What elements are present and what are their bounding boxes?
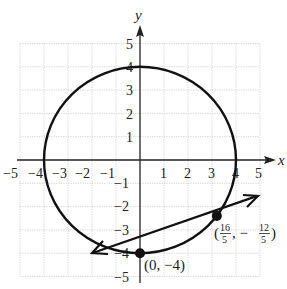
y-tick: 1 (126, 130, 133, 145)
x-axis-label: x (277, 152, 285, 168)
frac1-num: 16 (220, 222, 230, 233)
y-tick: −5 (114, 270, 129, 285)
x-tick: −4 (28, 166, 43, 181)
frac2-num: 12 (259, 222, 269, 233)
y-axis-label: y (133, 7, 142, 23)
x-tick: −3 (52, 166, 67, 181)
x-tick: 1 (160, 166, 167, 181)
y-tick: −3 (114, 223, 129, 238)
point-label-0-neg4: (0, −4) (144, 257, 185, 274)
separator: , − (232, 225, 248, 241)
x-tick-labels: −5 −4 −3 −2 −1 1 2 3 4 5 (3, 166, 262, 181)
x-tick: 5 (255, 166, 262, 181)
y-tick: 5 (126, 37, 133, 52)
y-tick: 3 (126, 83, 133, 98)
y-tick: −2 (114, 199, 129, 214)
paren-open: ( (214, 225, 219, 242)
frac1-den: 5 (222, 234, 227, 245)
x-tick: −2 (75, 166, 90, 181)
x-tick: −5 (3, 166, 18, 181)
x-tick: 3 (208, 166, 215, 181)
coordinate-plane: x y −5 −4 −3 −2 −1 1 2 3 4 5 5 4 3 2 1 −… (0, 0, 287, 289)
point-label-16-5-neg12-5: ( 16 5 , − 12 5 ) (214, 222, 276, 245)
y-tick: 2 (126, 107, 133, 122)
y-tick-labels: 5 4 3 2 1 −1 −2 −3 −4 −5 (114, 37, 133, 285)
frac2-den: 5 (261, 234, 266, 245)
x-tick: −1 (100, 166, 115, 181)
y-tick: −1 (114, 176, 129, 191)
paren-close: ) (271, 225, 276, 242)
x-tick: 2 (184, 166, 191, 181)
point-16-5-neg12-5 (212, 211, 222, 221)
